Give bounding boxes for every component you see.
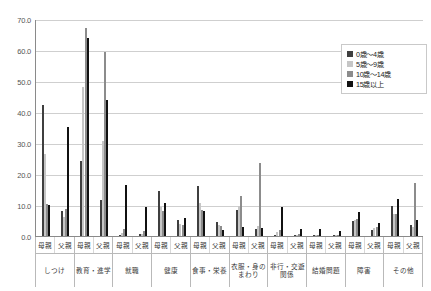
parent-row: 母親父親 [113, 237, 151, 254]
legend-label: 10歳～14歳 [356, 69, 391, 79]
category-label: 食事・栄養 [191, 254, 229, 287]
category-group: 母親父親障害 [346, 237, 385, 287]
bar [259, 163, 261, 236]
category-group: 母親父親しつけ [35, 237, 75, 287]
legend-item: 5歳～9歳 [347, 59, 422, 69]
legend-item: 15歳以上 [347, 79, 422, 89]
legend-swatch-icon [347, 51, 353, 57]
parent-label: 母親 [36, 237, 55, 253]
parent-label: 母親 [268, 237, 287, 253]
category-group: 母親父親食事・栄養 [191, 237, 230, 287]
parent-label: 父親 [94, 237, 112, 253]
category-label: 衣服・身のまわり [230, 254, 268, 287]
parent-label: 母親 [384, 237, 403, 253]
parent-label: 母親 [307, 237, 326, 253]
bar [203, 211, 205, 236]
parent-row: 母親父親 [384, 237, 422, 254]
parent-label: 父親 [404, 237, 422, 253]
parent-row: 母親父親 [230, 237, 268, 254]
legend-label: 0歳～4歳 [356, 49, 384, 59]
category-label: 教育・進学 [75, 254, 113, 287]
category-group: 母親父親就職 [113, 237, 152, 287]
y-axis-tick-label: 60.0 [17, 47, 31, 56]
y-axis-tick-label: 40.0 [17, 109, 31, 118]
category-label: その他 [384, 254, 422, 287]
bar [261, 228, 263, 236]
parent-label: 父親 [249, 237, 267, 253]
parent-label: 母親 [152, 237, 171, 253]
category-group: 母親父親結婚問題 [307, 237, 346, 287]
y-axis-tick-label: 10.0 [17, 202, 31, 211]
category-group: 母親父親衣服・身のまわり [230, 237, 269, 287]
bar [67, 127, 69, 236]
y-axis-tick-label: 70.0 [17, 16, 31, 25]
parent-label: 父親 [365, 237, 383, 253]
bar [339, 231, 341, 236]
parent-label: 母親 [346, 237, 365, 253]
bar [416, 220, 418, 236]
parent-row: 母親父親 [75, 237, 113, 254]
parent-row: 母親父親 [36, 237, 74, 254]
parent-row: 母親父親 [307, 237, 345, 254]
bar [222, 230, 224, 236]
category-label: 非行・交遊関係 [268, 254, 306, 287]
legend-label: 5歳～9歳 [356, 59, 384, 69]
bar-chart: 0.010.020.030.040.050.060.070.0 母親父親しつけ母… [0, 0, 431, 291]
legend-swatch-icon [347, 61, 353, 67]
bar [164, 203, 166, 236]
category-axis: 母親父親しつけ母親父親教育・進学母親父親就職母親父親健康母親父親食事・栄養母親父… [35, 237, 423, 287]
parent-label: 母親 [191, 237, 210, 253]
legend-label: 15歳以上 [356, 79, 384, 89]
parent-label: 父親 [210, 237, 228, 253]
category-group: 母親父親非行・交遊関係 [268, 237, 307, 287]
y-axis-tick-label: 0.0 [21, 233, 31, 242]
bar [242, 227, 244, 236]
legend-swatch-icon [347, 71, 353, 77]
legend-swatch-icon [347, 81, 353, 87]
bar [378, 223, 380, 236]
bar [300, 229, 302, 236]
bar [48, 205, 50, 236]
category-group: 母親父親その他 [384, 237, 423, 287]
parent-row: 母親父親 [268, 237, 306, 254]
bar [87, 38, 89, 236]
category-label: 障害 [346, 254, 384, 287]
parent-label: 母親 [113, 237, 132, 253]
category-label: しつけ [36, 254, 74, 287]
bar [358, 212, 360, 236]
chart-legend: 0歳～4歳5歳～9歳10歳～14歳15歳以上 [341, 44, 427, 94]
parent-label: 父親 [326, 237, 344, 253]
parent-row: 母親父親 [346, 237, 384, 254]
y-axis-labels: 0.010.020.030.040.050.060.070.0 [0, 0, 33, 291]
bar [184, 218, 186, 236]
bar [281, 207, 283, 236]
bar [397, 199, 399, 236]
legend-item: 10歳～14歳 [347, 69, 422, 79]
parent-label: 父親 [55, 237, 73, 253]
bar [319, 229, 321, 236]
category-group: 母親父親健康 [152, 237, 191, 287]
parent-label: 父親 [288, 237, 306, 253]
bar [145, 207, 147, 236]
parent-row: 母親父親 [191, 237, 229, 254]
category-label: 結婚問題 [307, 254, 345, 287]
y-axis-tick-label: 20.0 [17, 171, 31, 180]
bar [125, 185, 127, 236]
parent-label: 父親 [171, 237, 189, 253]
category-label: 健康 [152, 254, 190, 287]
parent-row: 母親父親 [152, 237, 190, 254]
parent-label: 母親 [75, 237, 94, 253]
bar [106, 100, 108, 236]
category-group: 母親父親教育・進学 [75, 237, 114, 287]
y-axis-tick-label: 50.0 [17, 78, 31, 87]
parent-label: 母親 [230, 237, 249, 253]
category-label: 就職 [113, 254, 151, 287]
y-axis-tick-label: 30.0 [17, 140, 31, 149]
legend-item: 0歳～4歳 [347, 49, 422, 59]
parent-label: 父親 [133, 237, 151, 253]
